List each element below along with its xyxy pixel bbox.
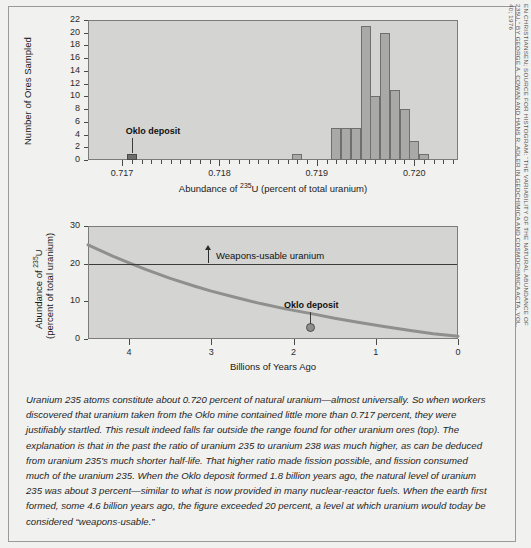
histogram-oklo-leader <box>132 138 133 153</box>
histogram-xtick-label: 0.719 <box>297 168 337 178</box>
histogram-xtick-minor <box>434 160 435 164</box>
histogram-xtick-minor <box>395 160 396 164</box>
histogram-xtick-minor <box>385 160 386 164</box>
histogram-bar <box>292 154 302 160</box>
figure-credit: EN CHRISTIANSEN; SOURCE FOR HISTOGRAM: “… <box>507 4 530 334</box>
histogram-xtick-minor <box>327 160 328 164</box>
histogram-xtick-minor <box>278 160 279 164</box>
histogram-xtick-minor <box>443 160 444 164</box>
histogram-ytick <box>84 160 88 161</box>
decay-x-axis-title: Billions of Years Ago <box>203 361 343 372</box>
histogram-xtick-minor <box>142 160 143 164</box>
histogram-y-axis-title: Number of Ores Sampled <box>22 37 33 145</box>
decay-oklo-label: Oklo deposit <box>284 300 339 310</box>
decay-y-title-text: Abundance of <box>33 267 44 328</box>
histogram-xtick-minor <box>161 160 162 164</box>
histogram-xtick-minor <box>307 160 308 164</box>
histogram-xtick-label: 0.717 <box>102 168 142 178</box>
histogram-xtick-minor <box>336 160 337 164</box>
histogram-ytick <box>84 33 88 34</box>
figure-panel: 02468101214161820220.7170.7180.7190.720O… <box>0 0 531 548</box>
histogram-xtick-minor <box>356 160 357 164</box>
decay-ytick-label: 30 <box>56 220 80 230</box>
histogram-ytick-label: 8 <box>56 103 80 113</box>
histogram-ytick <box>84 45 88 46</box>
histogram-ytick-label: 20 <box>56 27 80 37</box>
histogram-x-axis-title: Abundance of 235U (percent of total uran… <box>168 182 378 194</box>
decay-xtick-label: 4 <box>109 347 149 357</box>
decay-xtick-label: 2 <box>274 347 314 357</box>
histogram-bar <box>331 128 341 160</box>
decay-oklo-leader <box>310 312 311 324</box>
histogram-xtick-minor <box>404 160 405 164</box>
histogram-ytick <box>84 147 88 148</box>
histogram-xtick-minor <box>229 160 230 164</box>
histogram-ytick-label: 0 <box>56 154 80 164</box>
histogram-ytick-label: 4 <box>56 129 80 139</box>
histogram-xtick-minor <box>249 160 250 164</box>
figure-border-top <box>8 6 516 7</box>
weapons-usable-label: Weapons-usable uranium <box>216 250 324 261</box>
histogram-xtick-minor <box>239 160 240 164</box>
histogram-chart: 02468101214161820220.7170.7180.7190.720O… <box>0 8 500 188</box>
histogram-ytick-label: 12 <box>56 78 80 88</box>
histogram-bar <box>419 154 429 160</box>
histogram-ytick-label: 18 <box>56 39 80 49</box>
histogram-ytick <box>84 84 88 85</box>
histogram-x-axis-title-pre: Abundance of <box>179 183 240 194</box>
histogram-bar <box>127 154 137 160</box>
histogram-ytick <box>84 20 88 21</box>
decay-curve-svg <box>88 226 460 341</box>
histogram-xtick-minor <box>190 160 191 164</box>
histogram-ytick <box>84 71 88 72</box>
histogram-xtick-minor <box>268 160 269 164</box>
histogram-ytick <box>84 122 88 123</box>
histogram-xtick-major <box>317 160 318 166</box>
decay-ytick-label: 0 <box>56 333 80 343</box>
histogram-ytick-label: 22 <box>56 14 80 24</box>
histogram-xtick-minor <box>365 160 366 164</box>
histogram-xtick-minor <box>132 160 133 164</box>
histogram-xtick-minor <box>288 160 289 164</box>
histogram-xtick-major <box>414 160 415 166</box>
figure-caption: Uranium 235 atoms constitute about 0.720… <box>26 392 492 529</box>
weapons-usable-arrow-icon <box>205 245 211 250</box>
decay-y-axis-title-line2: (percent of total uranium) <box>44 232 55 338</box>
decay-curve-chart: 010203043210Weapons-usable uraniumOklo d… <box>0 212 500 380</box>
decay-xtick-label: 3 <box>191 347 231 357</box>
histogram-xtick-major <box>122 160 123 166</box>
histogram-xtick-minor <box>180 160 181 164</box>
decay-ytick-label: 10 <box>56 295 80 305</box>
histogram-xtick-label: 0.718 <box>199 168 239 178</box>
histogram-oklo-label: Oklo deposit <box>126 126 181 136</box>
histogram-xtick-minor <box>375 160 376 164</box>
histogram-bar <box>409 141 419 160</box>
histogram-xtick-minor <box>424 160 425 164</box>
histogram-xtick-minor <box>200 160 201 164</box>
weapons-usable-arrow-stem <box>208 249 209 263</box>
decay-xtick-label: 0 <box>438 347 478 357</box>
histogram-xtick-major <box>219 160 220 166</box>
histogram-xtick-minor <box>346 160 347 164</box>
figure-border-bottom <box>8 541 516 542</box>
oklo-deposit-marker <box>306 323 315 332</box>
histogram-bar <box>390 90 400 160</box>
isotope-superscript: 235 <box>240 182 251 189</box>
histogram-ytick-label: 2 <box>56 141 80 151</box>
isotope-superscript: 235 <box>32 256 39 267</box>
histogram-ytick-label: 6 <box>56 116 80 126</box>
histogram-ytick-label: 16 <box>56 52 80 62</box>
decay-xtick-label: 1 <box>356 347 396 357</box>
histogram-xtick-minor <box>258 160 259 164</box>
weapons-usable-line <box>89 264 457 265</box>
histogram-xtick-minor <box>171 160 172 164</box>
histogram-bar <box>370 96 380 160</box>
histogram-bar <box>341 128 351 160</box>
histogram-ytick <box>84 96 88 97</box>
decay-y-axis-title-line1: Abundance of 235U <box>32 249 44 329</box>
histogram-bar <box>351 128 361 160</box>
histogram-ytick <box>84 58 88 59</box>
histogram-ytick <box>84 109 88 110</box>
decay-y-title-unit: U <box>33 249 44 256</box>
decay-ytick-label: 20 <box>56 258 80 268</box>
